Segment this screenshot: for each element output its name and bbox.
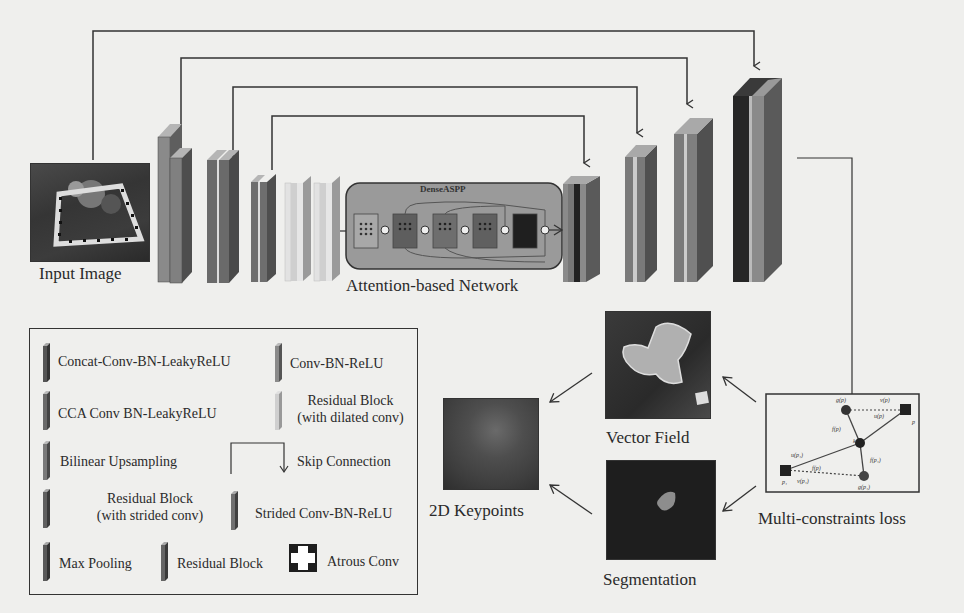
dense-aspp-title: DenseASPP bbox=[420, 184, 466, 194]
legend-box: Concat-Conv-BN-LeakyReLU Conv-BN-ReLU CC… bbox=[29, 328, 418, 595]
segmentation-image bbox=[606, 460, 716, 560]
legend-bilinear: Bilinear Upsampling bbox=[60, 453, 177, 470]
svg-text:f(p): f(p) bbox=[812, 465, 821, 472]
residual-strided-icon bbox=[43, 489, 51, 529]
legend-skip-connection: Skip Connection bbox=[297, 453, 391, 470]
residual-block-icon bbox=[161, 542, 169, 582]
svg-text:f(p): f(p) bbox=[832, 426, 841, 433]
decoder-blocks bbox=[563, 78, 782, 282]
legend-residual-dilated-line2: (with dilated conv) bbox=[288, 409, 413, 426]
legend-concat-conv: Concat-Conv-BN-LeakyReLU bbox=[58, 353, 231, 370]
legend-residual-block: Residual Block bbox=[177, 555, 263, 572]
bilinear-upsampling-icon bbox=[43, 441, 51, 481]
max-pooling-icon bbox=[43, 542, 51, 582]
loss-diagram: g(p) v(p) u(p) f(p) k f(p₁) u(p₁) f(p) v… bbox=[766, 394, 919, 492]
svg-text:u(p₁): u(p₁) bbox=[791, 452, 803, 459]
dense-aspp-module bbox=[346, 183, 562, 269]
legend-residual-strided-line1: Residual Block bbox=[85, 490, 215, 507]
vector-field-image bbox=[605, 311, 711, 419]
legend-max-pooling: Max Pooling bbox=[59, 555, 132, 572]
legend-residual-strided-line2: (with strided conv) bbox=[85, 507, 215, 524]
vector-field-label: Vector Field bbox=[606, 428, 690, 448]
svg-text:g(p₁): g(p₁) bbox=[858, 484, 870, 491]
encoder-blocks bbox=[158, 124, 340, 283]
legend-residual-dilated: Residual Block (with dilated conv) bbox=[288, 392, 413, 426]
loss-label: Multi-constraints loss bbox=[758, 509, 906, 529]
legend-residual-dilated-line1: Residual Block bbox=[288, 392, 413, 409]
svg-text:f(p₁): f(p₁) bbox=[870, 457, 881, 464]
atrous-conv-icon bbox=[289, 544, 317, 572]
concat-conv-icon bbox=[43, 343, 51, 383]
legend-residual-strided: Residual Block (with strided conv) bbox=[85, 490, 215, 524]
strided-conv-icon bbox=[231, 491, 239, 531]
segmentation-mask bbox=[607, 461, 715, 559]
input-image-label: Input Image bbox=[39, 264, 122, 284]
svg-text:g(p): g(p) bbox=[836, 397, 846, 404]
residual-dilated-icon bbox=[275, 391, 283, 431]
segmentation-label: Segmentation bbox=[603, 570, 696, 590]
svg-text:v(p₁): v(p₁) bbox=[797, 478, 809, 485]
input-image bbox=[30, 163, 150, 262]
vector-field-object bbox=[606, 312, 710, 418]
cca-conv-icon bbox=[43, 391, 51, 431]
svg-text:v(p): v(p) bbox=[880, 397, 890, 404]
svg-text:u(p): u(p) bbox=[874, 413, 884, 420]
skip-connection-icon bbox=[230, 441, 290, 477]
svg-text:p₁: p₁ bbox=[781, 479, 787, 485]
keypoints-label: 2D Keypoints bbox=[429, 501, 524, 521]
conv-bn-relu-icon bbox=[275, 343, 283, 383]
legend-atrous-conv: Atrous Conv bbox=[327, 553, 399, 570]
keypoints-image bbox=[443, 398, 539, 490]
legend-cca-conv: CCA Conv BN-LeakyReLU bbox=[58, 405, 217, 422]
svg-text:p: p bbox=[911, 419, 915, 425]
attention-network-label: Attention-based Network bbox=[346, 276, 518, 296]
svg-text:k: k bbox=[853, 438, 856, 444]
legend-strided-conv: Strided Conv-BN-ReLU bbox=[255, 505, 392, 522]
marker-board-graphic bbox=[31, 164, 149, 261]
legend-conv-bn-relu: Conv-BN-ReLU bbox=[290, 355, 383, 372]
